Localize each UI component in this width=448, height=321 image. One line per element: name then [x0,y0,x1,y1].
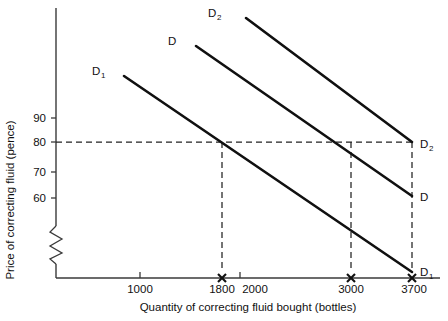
demand-curve-d1 [124,76,412,272]
chart-canvas: 90 80 70 60 1000 1800 2000 3000 3700 [0,0,448,321]
x-tick-label-3000: 3000 [338,283,364,295]
curve-label-d1-left-subscript: 1 [101,71,106,80]
curve-label-d1-right-subscript: 1 [429,272,434,281]
curve-label-d2-right-subscript: 2 [429,144,434,153]
x-axis-title: Quantity of correcting fluid bought (bot… [140,301,357,313]
x-tick-label-2000: 2000 [242,283,268,295]
x-tick-label-1000: 1000 [127,283,153,295]
demand-curve-chart: 90 80 70 60 1000 1800 2000 3000 3700 [0,0,448,321]
axis-break-zigzag [50,226,62,264]
curve-label-d1-left: D [92,65,100,77]
demand-curve-d [196,46,412,196]
curve-label-d-right: D [420,191,428,203]
y-tick-label-90: 90 [33,112,46,124]
curve-label-d-left: D [168,35,176,47]
y-tick-label-80: 80 [33,136,46,148]
curve-label-d2-right: D [420,138,428,150]
y-tick-label-70: 70 [33,166,46,178]
x-tick-label-3700: 3700 [401,283,427,295]
curve-label-d1-right: D [420,266,428,278]
y-tick-label-60: 60 [33,192,46,204]
y-axis-title: Price of correcting fluid (pence) [4,120,16,279]
curve-label-d2-left: D [208,7,216,19]
demand-curve-d2 [246,18,412,142]
x-tick-label-1800: 1800 [209,283,235,295]
curve-label-d2-left-subscript: 2 [217,13,222,22]
